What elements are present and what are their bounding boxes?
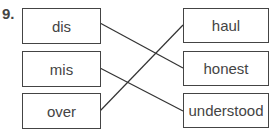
left-box-mis: mis <box>22 51 101 87</box>
left-box-dis: dis <box>22 8 101 44</box>
right-box-haul: haul <box>183 8 269 43</box>
right-box-honest: honest <box>183 51 269 86</box>
right-box-understood: understood <box>183 93 269 128</box>
left-box-over: over <box>22 93 101 129</box>
line-over-haul <box>100 25 183 111</box>
line-mis-understood <box>100 68 183 111</box>
line-dis-honest <box>100 23 183 68</box>
